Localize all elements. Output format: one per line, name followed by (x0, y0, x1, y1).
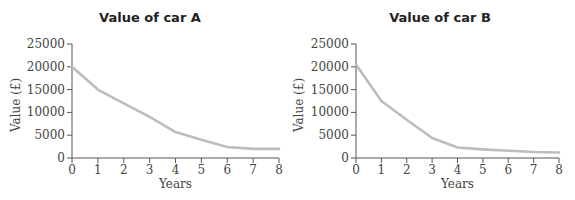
y-tick-label: 15000 (27, 83, 65, 97)
y-tick-label: 5000 (34, 128, 65, 142)
x-tick-label: 5 (198, 163, 206, 177)
x-tick-label: 8 (275, 163, 283, 177)
x-tick-label: 6 (504, 163, 512, 177)
x-tick-label: 7 (530, 163, 538, 177)
x-tick-label: 2 (120, 163, 128, 177)
y-tick-label: 10000 (27, 105, 65, 119)
x-tick-label: 8 (555, 163, 563, 177)
y-tick-label: 25000 (27, 37, 65, 51)
y-tick-label: 0 (57, 151, 65, 165)
car-a-value-line (72, 67, 279, 149)
x-tick-label: 4 (454, 163, 462, 177)
y-tick-label: 20000 (27, 60, 65, 74)
y-tick-label: 15000 (311, 83, 349, 97)
car-b-title: Value of car B (389, 10, 491, 25)
y-tick-label: 0 (341, 151, 349, 165)
car-b-value-line (356, 65, 559, 153)
car-b-x-axis-label: Years (440, 177, 474, 191)
x-tick-label: 3 (146, 163, 154, 177)
car-a-y-axis-label: Value (£) (9, 78, 23, 133)
x-tick-label: 1 (94, 163, 102, 177)
y-tick-label: 20000 (311, 60, 349, 74)
x-tick-label: 2 (403, 163, 411, 177)
x-tick-label: 1 (378, 163, 386, 177)
x-tick-label: 3 (428, 163, 436, 177)
y-tick-label: 25000 (311, 37, 349, 51)
x-tick-label: 4 (172, 163, 180, 177)
x-tick-label: 5 (479, 163, 487, 177)
car-b-y-axis-label: Value (£) (292, 78, 306, 133)
y-tick-label: 5000 (318, 128, 349, 142)
x-tick-label: 0 (68, 163, 76, 177)
x-tick-label: 6 (223, 163, 231, 177)
car-a-x-axis-label: Years (158, 177, 192, 191)
x-tick-label: 7 (249, 163, 257, 177)
car-a-title: Value of car A (99, 10, 201, 25)
x-tick-label: 0 (352, 163, 360, 177)
y-tick-label: 10000 (311, 105, 349, 119)
charts-canvas: Value of car A05000100001500020000250000… (0, 0, 575, 200)
